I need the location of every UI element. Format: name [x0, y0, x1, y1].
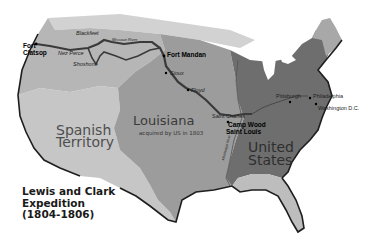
title-line1: Lewis and Clark [22, 186, 115, 198]
louisiana-label: Louisiana [133, 114, 194, 127]
philadelphia-dot [309, 97, 311, 99]
pittsburgh-label: Pittsburgh [276, 94, 301, 100]
missouri-river-label: Missouri River [112, 38, 137, 42]
sioux-label: Sioux [170, 71, 184, 77]
fort-mandan-dot [163, 55, 166, 58]
fort-clatsop-label: Fort Clatsop [23, 42, 47, 56]
fort-clatsop-line2: Clatsop [23, 49, 47, 56]
floyd-dot [187, 89, 189, 91]
shoshone-label: Shoshone [73, 62, 98, 68]
title-line3: (1804-1806) [22, 209, 115, 221]
fort-clatsop-line1: Fort [23, 42, 47, 49]
fort-mandan-label: Fort Mandan [167, 52, 206, 59]
saint-charles-label: Saint Charles [212, 114, 245, 120]
nez-perce-label: Nez Perce [58, 51, 84, 57]
us-line2: States [248, 154, 294, 167]
sioux-dot [165, 72, 167, 74]
louisiana-note: acquired by US in 1803 [139, 131, 203, 137]
washington-dot [315, 103, 317, 105]
washington-label: Washington D.C. [318, 106, 359, 112]
united-states-label: United States [248, 141, 294, 167]
spanish-line2: Territory [56, 136, 114, 148]
map-title: Lewis and Clark Expedition (1804-1806) [22, 186, 115, 221]
pittsburgh-dot [289, 101, 291, 103]
philadelphia-label: Philadelphia [313, 94, 343, 100]
spanish-territory-label: Spanish Territory [56, 124, 114, 148]
blackfeet-label: Blackfeet [76, 31, 99, 37]
floyd-label: Floyd [191, 88, 204, 94]
